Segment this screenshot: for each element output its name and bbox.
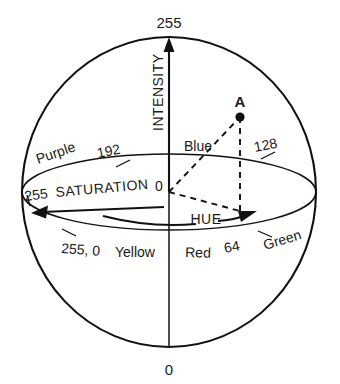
hue-color-purple-label: Purple: [34, 138, 78, 166]
hue-color-blue-label: Blue: [184, 138, 212, 154]
intensity-max-label: 255: [156, 14, 181, 31]
intensity-min-label: 0: [165, 361, 173, 378]
hsi-color-model-figure: 255 0 INTENSITY 255 SATURATION 0 HUE 192…: [0, 0, 340, 384]
intensity-axis-label: INTENSITY: [150, 53, 166, 131]
hue-axis-label: HUE: [190, 211, 221, 227]
hue-tick-255-0-label: 255, 0: [61, 240, 101, 259]
diagram-canvas: 255 0 INTENSITY 255 SATURATION 0 HUE 192…: [0, 0, 340, 384]
saturation-max-label: 255: [23, 185, 48, 204]
point-a-marker: [235, 112, 244, 121]
intensity-arrowhead-icon: [164, 37, 175, 52]
saturation-axis-label: SATURATION: [55, 176, 149, 200]
hue-tick-64-label: 64: [223, 237, 242, 256]
point-a-label: A: [235, 93, 246, 110]
hue-color-red-label: Yellow: [115, 244, 156, 260]
leader-255-0: [62, 229, 76, 236]
hue-arrowhead-icon: [238, 211, 257, 222]
dashed-saturation-projection: [169, 192, 240, 211]
leader-192: [116, 160, 130, 167]
saturation-axis-line: [42, 207, 164, 212]
hue-color-green-label: Green: [261, 226, 303, 253]
hue-tick-192-label: 192: [96, 141, 122, 161]
hue-color-yellow-label: Red: [185, 244, 211, 261]
hue-arc-left: [103, 216, 196, 225]
saturation-min-label: 0: [155, 178, 163, 194]
